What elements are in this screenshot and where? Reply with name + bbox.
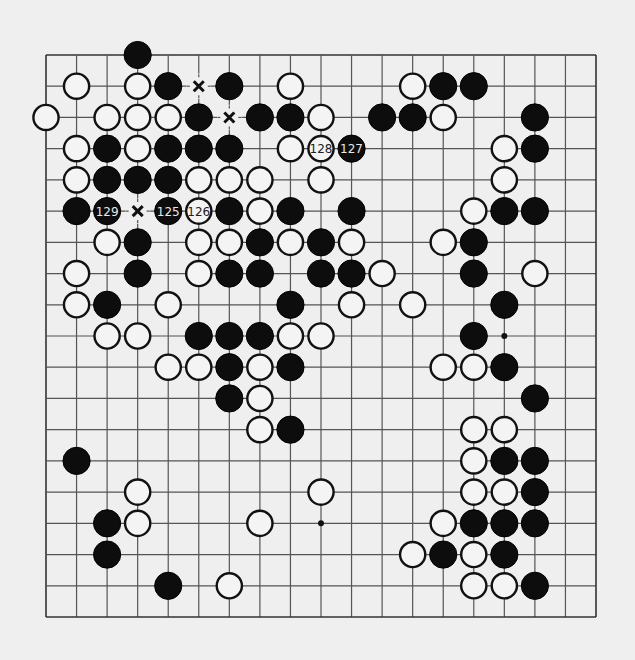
black-stone [216, 385, 243, 412]
white-stone [461, 573, 486, 598]
x-mark-icon [187, 74, 212, 99]
white-stone [95, 105, 120, 130]
black-stone [460, 229, 487, 256]
black-stone [491, 541, 518, 568]
black-stone [460, 322, 487, 349]
go-board: 128127129125126 [0, 0, 635, 660]
black-stone-numbered: 127 [338, 135, 365, 162]
black-stone [521, 385, 548, 412]
black-stone [63, 198, 90, 225]
hoshi-point [318, 520, 324, 526]
move-number-label: 125 [157, 205, 180, 219]
white-stone [431, 355, 456, 380]
white-stone [461, 355, 486, 380]
black-stone [307, 260, 334, 287]
white-stone [492, 167, 517, 192]
black-stone [277, 104, 304, 131]
white-stone [522, 261, 547, 286]
white-stone [156, 355, 181, 380]
black-stone [430, 541, 457, 568]
black-stone [155, 166, 182, 193]
white-stone [125, 105, 150, 130]
black-stone [246, 229, 273, 256]
white-stone [278, 230, 303, 255]
white-stone [461, 417, 486, 442]
black-stone [216, 354, 243, 381]
black-stone [246, 322, 273, 349]
white-stone [370, 261, 395, 286]
black-stone [338, 198, 365, 225]
black-stone [521, 447, 548, 474]
white-stone [247, 417, 272, 442]
white-stone [492, 573, 517, 598]
white-stone [64, 136, 89, 161]
white-stone [278, 74, 303, 99]
black-stone [277, 198, 304, 225]
white-stone [125, 74, 150, 99]
black-stone [521, 572, 548, 599]
white-stone [125, 323, 150, 348]
black-stone [491, 291, 518, 318]
black-stone [216, 322, 243, 349]
black-stone [491, 510, 518, 537]
white-stone [186, 230, 211, 255]
black-stone [155, 572, 182, 599]
black-stone [155, 73, 182, 100]
move-number-label: 129 [96, 205, 119, 219]
white-stone [156, 292, 181, 317]
black-stone [155, 135, 182, 162]
move-number-label: 126 [187, 205, 210, 219]
black-stone [216, 260, 243, 287]
black-stone [216, 73, 243, 100]
white-stone [431, 105, 456, 130]
move-number-label: 128 [310, 142, 333, 156]
black-stone [63, 447, 90, 474]
white-stone [125, 136, 150, 161]
black-stone [185, 104, 212, 131]
black-stone [216, 135, 243, 162]
black-stone [369, 104, 396, 131]
black-stone [491, 447, 518, 474]
black-stone [216, 198, 243, 225]
white-stone [461, 448, 486, 473]
white-stone [431, 230, 456, 255]
white-stone [492, 480, 517, 505]
black-stone [277, 291, 304, 318]
black-stone [246, 104, 273, 131]
white-stone [64, 74, 89, 99]
black-stone [124, 166, 151, 193]
white-stone [64, 292, 89, 317]
black-stone [491, 354, 518, 381]
white-stone [400, 292, 425, 317]
black-stone [521, 104, 548, 131]
white-stone [278, 323, 303, 348]
white-stone [431, 511, 456, 536]
hoshi-point [501, 333, 507, 339]
move-number-label: 127 [340, 142, 363, 156]
black-stone [124, 260, 151, 287]
go-board-diagram: 128127129125126 [0, 0, 635, 660]
black-stone [460, 510, 487, 537]
black-stone [94, 291, 121, 318]
white-stone [400, 74, 425, 99]
black-stone [521, 510, 548, 537]
white-stone [492, 417, 517, 442]
white-stone [492, 136, 517, 161]
white-stone [308, 323, 333, 348]
black-stone [521, 135, 548, 162]
white-stone [461, 542, 486, 567]
black-stone [277, 354, 304, 381]
white-stone-numbered: 128 [308, 136, 333, 161]
black-stone [94, 135, 121, 162]
white-stone [95, 230, 120, 255]
white-stone [247, 199, 272, 224]
white-stone [217, 167, 242, 192]
white-stone [64, 167, 89, 192]
black-stone [124, 229, 151, 256]
white-stone [400, 542, 425, 567]
white-stone [247, 386, 272, 411]
white-stone [247, 511, 272, 536]
white-stone [125, 480, 150, 505]
white-stone [461, 480, 486, 505]
white-stone [217, 230, 242, 255]
